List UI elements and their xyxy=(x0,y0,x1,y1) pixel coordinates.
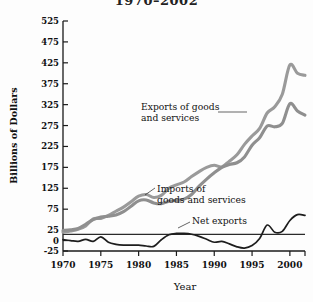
exports-label-line1: Exports of goods xyxy=(141,101,220,112)
x-tick-label: 2000 xyxy=(277,260,302,270)
y-tick-label: 525 xyxy=(41,16,59,26)
y-tick-label: 275 xyxy=(41,121,59,131)
x-tick-label: 1980 xyxy=(126,260,151,270)
exports-label-line2: and services xyxy=(141,112,199,123)
x-tick-label: 1970 xyxy=(50,260,75,270)
y-tick-label: 375 xyxy=(41,79,59,89)
series-line-imports xyxy=(63,64,305,232)
net-exports-leader-line xyxy=(178,222,190,228)
y-tick-group: 52547542537532527522517512575250-25 xyxy=(41,16,68,256)
imports-leader-line xyxy=(145,188,155,195)
y-tick-label: 25 xyxy=(47,225,59,235)
y-tick-label: 475 xyxy=(41,37,59,47)
y-tick-label: 325 xyxy=(41,100,59,110)
x-tick-group: 1970197519801985199019952000 xyxy=(50,251,305,270)
imports-label-line1: Imports of xyxy=(157,183,206,194)
chart-figure: 1970–2002 Billions of Dollars 5254754253… xyxy=(0,0,313,302)
y-tick-label: 0 xyxy=(53,236,59,246)
y-tick-label: 425 xyxy=(41,58,59,68)
plot-area: 52547542537532527522517512575250-25 1970… xyxy=(0,0,313,302)
y-tick-label: -25 xyxy=(44,246,59,256)
y-tick-label: 125 xyxy=(41,183,59,193)
x-tick-label: 1995 xyxy=(240,260,265,270)
net-exports-label: Net exports xyxy=(192,215,247,226)
x-tick-label: 1975 xyxy=(88,260,113,270)
y-tick-label: 225 xyxy=(41,141,59,151)
x-tick-label: 1985 xyxy=(164,260,189,270)
y-tick-label: 175 xyxy=(41,162,59,172)
imports-label-line2: goods and services xyxy=(157,194,246,205)
x-tick-label: 1990 xyxy=(202,260,227,270)
y-tick-label: 75 xyxy=(47,204,59,214)
x-axis-title: Year xyxy=(60,281,310,292)
